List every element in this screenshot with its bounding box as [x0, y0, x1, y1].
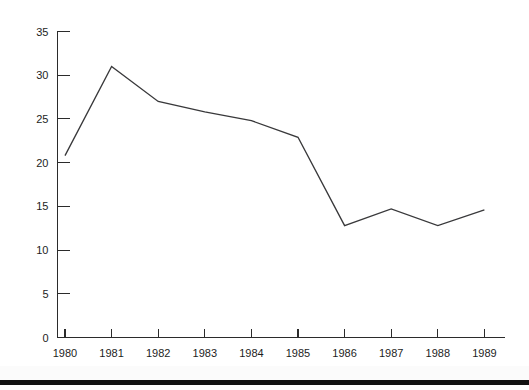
x-tick-label: 1980	[53, 347, 77, 359]
y-tick-label: 15	[36, 200, 48, 212]
x-tick-label: 1981	[99, 347, 123, 359]
scan-tint-band	[0, 366, 529, 380]
y-tick-label: 30	[36, 69, 48, 81]
line-chart-figure: 05101520253035 1980198119821983198419851…	[0, 0, 529, 390]
y-axis-tick-labels: 05101520253035	[36, 26, 48, 344]
y-tick-label: 35	[36, 26, 48, 38]
y-tick-label: 10	[36, 244, 48, 256]
y-tick-label: 5	[42, 288, 48, 300]
data-line-series-1	[65, 66, 484, 225]
y-tick-label: 25	[36, 113, 48, 125]
y-axis-ticks	[58, 32, 70, 338]
scan-edge-bar	[0, 380, 529, 385]
chart-page: 05101520253035 1980198119821983198419851…	[0, 0, 529, 390]
y-tick-label: 20	[36, 157, 48, 169]
x-tick-label: 1983	[193, 347, 217, 359]
x-tick-label: 1985	[286, 347, 310, 359]
x-tick-label: 1986	[332, 347, 356, 359]
x-tick-label: 1982	[146, 347, 170, 359]
y-tick-label: 0	[42, 332, 48, 344]
x-tick-label: 1984	[239, 347, 263, 359]
x-axis-ticks	[65, 329, 484, 338]
chart-plot-area: 05101520253035 1980198119821983198419851…	[0, 0, 529, 390]
x-tick-label: 1988	[426, 347, 450, 359]
x-axis-tick-labels: 1980198119821983198419851986198719881989	[53, 347, 497, 359]
x-tick-label: 1987	[379, 347, 403, 359]
x-tick-label: 1989	[472, 347, 496, 359]
